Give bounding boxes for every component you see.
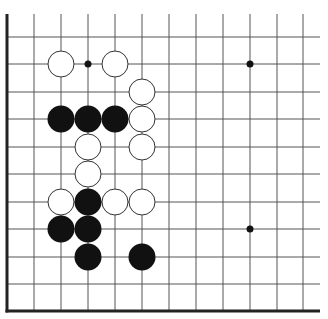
stones [48, 51, 156, 271]
white-stone [48, 51, 74, 77]
white-stone [48, 189, 74, 215]
star-point-icon [85, 61, 92, 68]
black-stone [75, 216, 102, 243]
go-board [0, 0, 328, 319]
white-stone [129, 106, 155, 132]
black-stone [75, 244, 102, 271]
black-stone [48, 216, 75, 243]
star-point-icon [247, 61, 254, 68]
white-stone [129, 189, 155, 215]
black-stone [75, 106, 102, 133]
white-stone [102, 51, 128, 77]
black-stone [102, 106, 129, 133]
white-stone [129, 79, 155, 105]
white-stone [102, 189, 128, 215]
white-stone [75, 161, 101, 187]
white-stone [129, 134, 155, 160]
white-stone [75, 134, 101, 160]
black-stone [75, 189, 102, 216]
black-stone [129, 244, 156, 271]
black-stone [48, 106, 75, 133]
star-point-icon [247, 226, 254, 233]
